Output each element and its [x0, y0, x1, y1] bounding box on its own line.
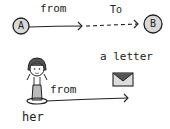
label-a-letter: a letter: [100, 51, 153, 62]
solid-arrow: [29, 22, 82, 30]
node-b-label: B: [148, 19, 158, 29]
dashed-arrow: [86, 20, 138, 28]
label-her: her: [22, 111, 44, 123]
label-to: To: [110, 5, 122, 15]
envelope-icon: [113, 73, 133, 86]
girl-figure-icon: [27, 58, 47, 104]
label-from-bottom: from: [50, 84, 77, 95]
label-from-top: from: [40, 3, 67, 14]
node-a-label: A: [16, 21, 26, 31]
